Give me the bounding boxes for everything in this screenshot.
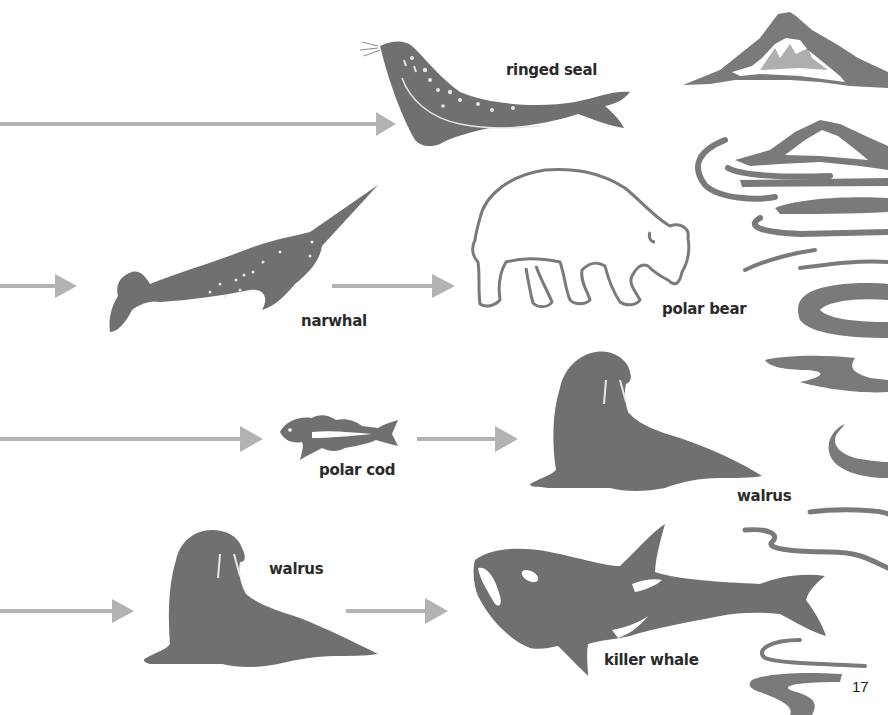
label-walrus: walrus	[269, 560, 323, 578]
ringed-seal-icon	[360, 42, 630, 147]
label-polar-bear: polar bear	[662, 300, 746, 318]
animals-layer	[0, 0, 888, 715]
walrus-icon	[144, 530, 378, 667]
label-polar-cod: polar cod	[319, 461, 395, 479]
label-killer-whale: killer whale	[604, 651, 699, 669]
label-ringed-seal: ringed seal	[506, 61, 597, 79]
page-number: 17	[852, 678, 869, 695]
walrus-icon	[530, 352, 762, 491]
label-walrus: walrus	[737, 487, 791, 505]
polar-bear-icon	[473, 170, 689, 307]
polar-cod-icon	[280, 415, 398, 460]
narwhal-icon	[109, 185, 378, 332]
label-narwhal: narwhal	[301, 312, 367, 330]
